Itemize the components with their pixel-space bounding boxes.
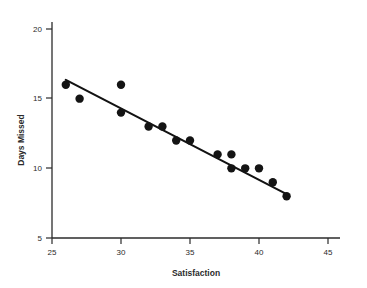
data-point — [241, 164, 249, 172]
x-tick-label-35: 35 — [186, 248, 195, 257]
x-tick-label-40: 40 — [255, 248, 264, 257]
data-point — [186, 136, 194, 144]
x-tick-label-30: 30 — [117, 248, 126, 257]
x-tick-label-45: 45 — [324, 248, 333, 257]
data-point — [269, 178, 277, 186]
x-axis-tick-labels-group: 25 30 35 40 45 — [48, 248, 333, 257]
axes-group — [52, 22, 340, 238]
y-tick-label-10: 10 — [33, 164, 42, 173]
y-axis-ticks-group — [46, 29, 52, 238]
x-axis-title: Satisfaction — [172, 268, 220, 278]
y-axis-tick-labels-group: 20 15 10 5 — [33, 25, 42, 243]
data-point — [158, 122, 166, 130]
x-tick-label-25: 25 — [48, 248, 57, 257]
data-point — [227, 164, 235, 172]
data-point — [213, 150, 221, 158]
y-axis-title: Days Missed — [16, 114, 26, 166]
data-point — [62, 81, 70, 89]
data-point — [75, 94, 83, 102]
y-tick-label-5: 5 — [38, 234, 43, 243]
scatter-plot-figure: 20 15 10 5 25 30 35 40 45 Satisfaction D… — [0, 0, 367, 288]
data-point — [227, 150, 235, 158]
x-axis-ticks-group — [52, 238, 328, 244]
data-points-group — [62, 81, 291, 201]
y-tick-label-20: 20 — [33, 25, 42, 34]
data-point — [117, 81, 125, 89]
data-point — [282, 192, 290, 200]
data-point — [144, 122, 152, 130]
plot-canvas: 20 15 10 5 25 30 35 40 45 Satisfaction D… — [0, 0, 367, 288]
y-tick-label-15: 15 — [33, 94, 42, 103]
data-point — [172, 136, 180, 144]
data-point — [255, 164, 263, 172]
data-point — [117, 108, 125, 116]
